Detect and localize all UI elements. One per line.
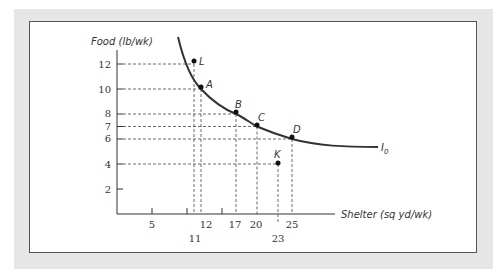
- svg-text:5: 5: [149, 219, 155, 230]
- svg-text:25: 25: [286, 219, 299, 230]
- indifference-curve-chart: L A B C D K I0 Food (lb/wk) Shelter (sq …: [0, 0, 493, 269]
- svg-text:4: 4: [105, 159, 111, 170]
- svg-text:6: 6: [105, 133, 111, 144]
- x-tick-labels: 5 12 17 20 25 11 23: [149, 219, 299, 244]
- point-b: [234, 110, 239, 115]
- y-tick-labels: 12 10 8 7 6 4 2: [98, 59, 111, 195]
- point-k: [276, 161, 281, 166]
- point-d: [290, 135, 295, 140]
- label-k: K: [274, 149, 282, 160]
- svg-text:12: 12: [200, 219, 213, 230]
- label-d: D: [293, 124, 301, 135]
- curve-label: I0: [381, 142, 389, 156]
- label-c: C: [258, 112, 265, 123]
- x-ticks: [152, 208, 222, 214]
- point-a: [199, 85, 204, 90]
- label-b: B: [235, 99, 242, 110]
- x-axis-label: Shelter (sq yd/wk): [341, 209, 432, 220]
- svg-text:10: 10: [98, 84, 111, 95]
- svg-text:2: 2: [105, 184, 111, 195]
- y-ticks: [117, 64, 123, 189]
- label-a: A: [205, 79, 213, 90]
- svg-text:8: 8: [105, 108, 111, 119]
- indifference-curve-i0: [178, 37, 378, 147]
- point-l: [192, 59, 197, 64]
- svg-text:11: 11: [189, 233, 202, 244]
- svg-text:17: 17: [229, 219, 242, 230]
- point-c: [255, 123, 260, 128]
- y-axis-label: Food (lb/wk): [91, 36, 153, 47]
- label-l: L: [199, 56, 205, 67]
- svg-text:12: 12: [98, 59, 111, 70]
- svg-text:7: 7: [105, 121, 111, 132]
- svg-text:20: 20: [250, 219, 263, 230]
- svg-text:23: 23: [272, 233, 285, 244]
